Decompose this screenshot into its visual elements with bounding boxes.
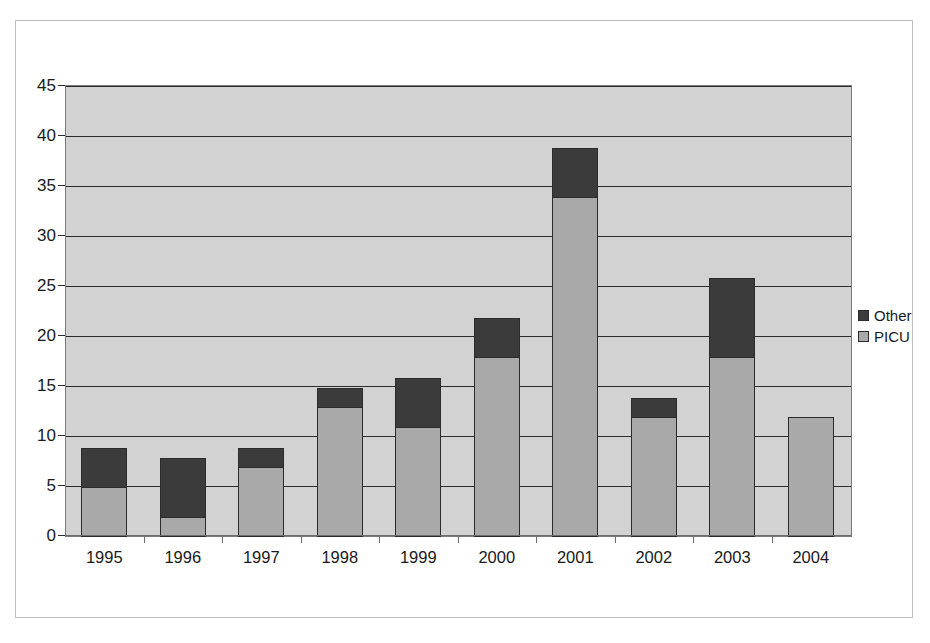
x-axis-tick-label: 1999 <box>400 548 437 566</box>
bar-segment-other[interactable] <box>552 148 598 198</box>
bar-segment-other[interactable] <box>395 378 441 428</box>
bar-stack[interactable] <box>81 448 127 535</box>
x-axis-tick-mark <box>458 535 459 543</box>
bar-segment-picu[interactable] <box>81 487 127 537</box>
x-axis-tick-label: 1997 <box>243 548 280 566</box>
bar-segment-other[interactable] <box>474 318 520 358</box>
bars-layer <box>65 85 850 535</box>
bar-segment-picu[interactable] <box>395 427 441 537</box>
bar-segment-picu[interactable] <box>788 417 834 537</box>
bar-segment-picu[interactable] <box>709 357 755 537</box>
y-axis-tick-mark <box>58 435 65 436</box>
bar-segment-other[interactable] <box>160 458 206 518</box>
bar-segment-picu[interactable] <box>160 517 206 537</box>
y-axis-tick-mark <box>58 385 65 386</box>
legend-item[interactable]: PICU <box>858 327 918 346</box>
y-axis-tick-mark <box>58 485 65 486</box>
chart-legend: OtherPICU <box>858 306 918 348</box>
x-axis-tick-label: 2000 <box>478 548 515 566</box>
x-axis-tick-label: 1998 <box>321 548 358 566</box>
legend-item-label: PICU <box>874 329 910 344</box>
y-axis-tick-mark <box>58 235 65 236</box>
y-axis-tick-mark <box>58 185 65 186</box>
bar-group <box>772 85 851 535</box>
y-axis-ticks <box>0 85 65 535</box>
bar-stack[interactable] <box>160 458 206 535</box>
bar-segment-picu[interactable] <box>552 197 598 537</box>
bar-segment-other[interactable] <box>238 448 284 468</box>
bar-stack[interactable] <box>709 278 755 535</box>
legend-item[interactable]: Other <box>858 306 918 325</box>
x-axis-tick-mark <box>301 535 302 543</box>
bar-stack[interactable] <box>788 417 834 536</box>
bar-group <box>65 85 144 535</box>
y-axis-tick-mark <box>58 285 65 286</box>
bar-group <box>693 85 772 535</box>
bar-group <box>379 85 458 535</box>
bar-group <box>144 85 223 535</box>
bar-segment-other[interactable] <box>81 448 127 488</box>
figure: 051015202530354045 199519961997199819992… <box>0 0 930 643</box>
bar-stack[interactable] <box>395 378 441 535</box>
bar-stack[interactable] <box>317 388 363 535</box>
x-axis-tick-mark <box>144 535 145 543</box>
bar-stack[interactable] <box>474 318 520 535</box>
bar-segment-picu[interactable] <box>631 417 677 537</box>
x-axis-tick-mark <box>379 535 380 543</box>
bar-stack[interactable] <box>552 148 598 535</box>
bar-group <box>615 85 694 535</box>
x-axis-tick-label: 2001 <box>557 548 594 566</box>
bar-segment-picu[interactable] <box>238 467 284 537</box>
y-axis-tick-mark <box>58 135 65 136</box>
y-axis-tick-mark <box>58 85 65 86</box>
x-axis-tick-label: 1995 <box>86 548 123 566</box>
x-axis-tick-mark <box>536 535 537 543</box>
bar-group <box>222 85 301 535</box>
bar-group <box>536 85 615 535</box>
bar-group <box>301 85 380 535</box>
bar-stack[interactable] <box>238 448 284 535</box>
bar-stack[interactable] <box>631 398 677 535</box>
x-axis-tick-label: 2004 <box>792 548 829 566</box>
legend-swatch-icon <box>858 310 869 321</box>
x-axis-tick-mark <box>222 535 223 543</box>
x-axis-tick-mark <box>693 535 694 543</box>
bar-segment-other[interactable] <box>317 388 363 408</box>
bar-segment-other[interactable] <box>709 278 755 358</box>
x-axis-tick-mark <box>772 535 773 543</box>
x-axis-tick-label: 2002 <box>635 548 672 566</box>
y-axis-tick-mark <box>58 535 65 536</box>
legend-swatch-icon <box>858 331 869 342</box>
x-axis-tick-label: 1996 <box>164 548 201 566</box>
bar-group <box>458 85 537 535</box>
bar-segment-picu[interactable] <box>317 407 363 537</box>
legend-item-label: Other <box>874 308 912 323</box>
bar-segment-other[interactable] <box>631 398 677 418</box>
x-axis-tick-label: 2003 <box>714 548 751 566</box>
x-axis-tick-mark <box>615 535 616 543</box>
bar-segment-picu[interactable] <box>474 357 520 537</box>
y-axis-tick-mark <box>58 335 65 336</box>
